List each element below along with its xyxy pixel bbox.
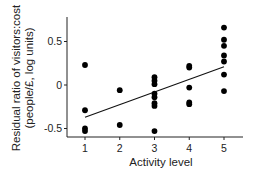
data-point [186,101,192,107]
y-tick-label: -0.5 [44,122,62,134]
y-axis-title-line-1: Residual ratio of visitors:cost [10,4,22,151]
data-point [152,128,158,134]
data-points [82,25,227,134]
x-axis-ticks: 12345 [82,137,227,154]
y-tick-label: 0.5 [47,35,62,47]
data-point [186,85,192,91]
x-tick-label: 3 [152,142,158,154]
data-point [221,37,227,43]
scatter-chart: 0.50-0.5 12345 Activity level Residual r… [0,0,257,181]
data-point [221,25,227,31]
data-point [186,65,192,71]
y-axis-title-line-2: (people/£, log units) [23,27,35,128]
data-point [152,81,158,87]
data-point [221,72,227,78]
data-point [117,122,123,128]
x-axis-title: Activity level [129,156,192,168]
y-tick-label: 0 [56,79,62,91]
x-tick-label: 4 [186,142,192,154]
data-point [152,103,158,109]
data-point [221,43,227,49]
data-point [152,94,158,100]
data-point [82,107,88,113]
x-tick-label: 5 [221,142,227,154]
data-point [117,87,123,93]
x-tick-label: 2 [117,142,123,154]
data-point [221,88,227,94]
data-point [82,128,88,134]
y-axis-title: Residual ratio of visitors:cost (people/… [10,4,35,151]
y-axis-ticks: 0.50-0.5 [44,35,67,134]
x-tick-label: 1 [82,142,88,154]
data-point [221,59,227,65]
data-point [82,62,88,68]
data-point [221,53,227,59]
